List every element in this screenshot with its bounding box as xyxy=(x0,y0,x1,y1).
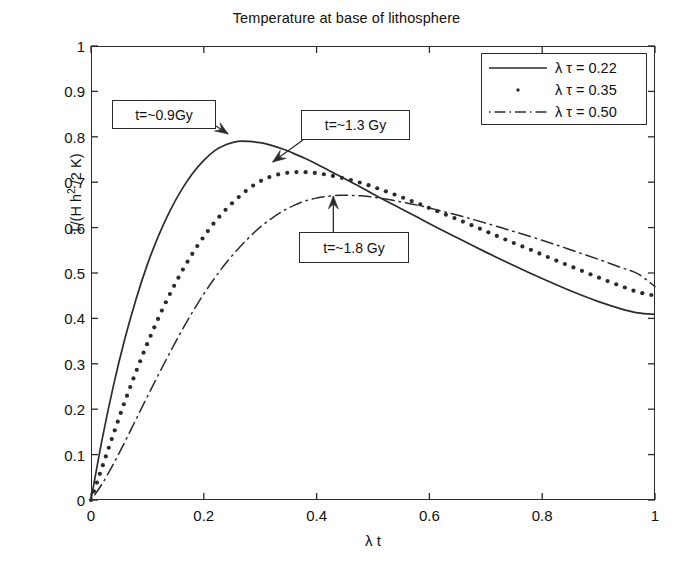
x-axis-label: λ t xyxy=(91,532,655,549)
x-tick-label: 0 xyxy=(61,508,121,523)
x-tick-label: 0.8 xyxy=(512,508,572,523)
legend-swatch-dotted-icon xyxy=(487,83,549,97)
x-tick-label: 0.6 xyxy=(399,508,459,523)
y-tick-label: 0.1 xyxy=(39,447,85,462)
y-tick-label: 0 xyxy=(39,493,85,508)
legend-item-2: λ τ = 0.50 xyxy=(482,101,646,123)
legend-item-1: λ τ = 0.35 xyxy=(482,79,646,101)
legend-label-2: λ τ = 0.50 xyxy=(555,104,617,120)
legend-swatch-dashdot-icon xyxy=(487,105,549,119)
y-tick-label: 1 xyxy=(39,39,85,54)
annotation-box-2: t=~1.8 Gy xyxy=(299,232,409,263)
legend-label-0: λ τ = 0.22 xyxy=(555,60,617,76)
legend-label-1: λ τ = 0.35 xyxy=(555,82,617,98)
y-tick-label: 0.9 xyxy=(39,84,85,99)
x-axis-tick-labels: 00.20.40.60.81 xyxy=(91,508,655,530)
annotation-box-1: t=~1.3 Gy xyxy=(301,110,410,140)
page-title: Temperature at base of lithosphere xyxy=(0,10,693,26)
x-tick-label: 0.4 xyxy=(287,508,347,523)
annotation-box-0: t=~0.9Gy xyxy=(112,100,216,129)
legend-swatch-solid-icon xyxy=(487,61,549,75)
y-axis-label: T/(H h2 /2 K) xyxy=(66,114,84,274)
legend-item-0: λ τ = 0.22 xyxy=(482,57,646,79)
y-tick-label: 0.4 xyxy=(39,311,85,326)
legend: λ τ = 0.22 λ τ = 0.35 λ τ = 0.50 xyxy=(481,53,647,125)
y-tick-label: 0.2 xyxy=(39,402,85,417)
figure-container: Temperature at base of lithosphere 00.10… xyxy=(0,0,693,563)
x-tick-label: 0.2 xyxy=(174,508,234,523)
y-tick-label: 0.3 xyxy=(39,356,85,371)
x-tick-label: 1 xyxy=(625,508,685,523)
